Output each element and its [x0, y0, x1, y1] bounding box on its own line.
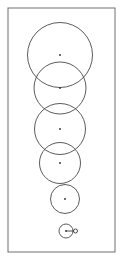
figure-container — [0, 0, 123, 260]
bubble-3-center-dot — [59, 128, 61, 130]
bubble-5-center-dot — [64, 198, 66, 200]
diagram-border — [8, 8, 115, 252]
bubble-4-center-dot — [59, 162, 61, 164]
bubble-1-center-dot — [59, 54, 61, 56]
bubble-2-center-dot — [59, 87, 61, 89]
bubble-chain-diagram — [0, 0, 123, 260]
